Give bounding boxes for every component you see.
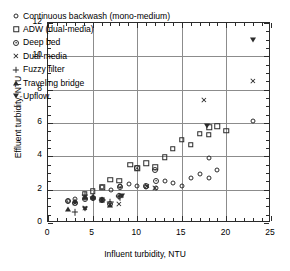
y-tick-minor: [48, 173, 51, 174]
y-tick-minor: [48, 206, 51, 207]
x-tick-major-top: [271, 23, 272, 28]
x-tick-minor: [253, 218, 254, 221]
marker-circle-icon: [207, 156, 212, 161]
x-tick-major: [182, 216, 183, 221]
y-tick-label: 4: [18, 150, 42, 159]
x-tick-minor: [110, 218, 111, 221]
legend-marker: [9, 63, 23, 76]
x-tick-minor: [209, 218, 210, 221]
y-tick-minor: [48, 140, 51, 141]
y-tick-major-right: [264, 123, 269, 124]
marker-square-icon: [100, 184, 106, 190]
y-tick-major-right: [264, 56, 269, 57]
y-tick-label: 10: [18, 50, 42, 59]
marker-square-icon: [162, 154, 168, 160]
y-tick-major-right: [264, 190, 269, 191]
y-tick-label: 6: [18, 117, 42, 126]
y-tick-minor-right: [266, 173, 269, 174]
x-tick-minor: [244, 218, 245, 221]
x-tick-minor-top: [235, 23, 236, 26]
marker-circle-dot-icon: [13, 40, 19, 46]
legend-marker: [9, 36, 23, 49]
marker-circle-icon: [135, 184, 140, 189]
marker-x-icon: [152, 185, 158, 191]
marker-circle-icon: [170, 181, 175, 186]
marker-triangle-down-icon: [13, 94, 19, 99]
marker-circle-dot-icon: [65, 198, 71, 204]
gridline-vertical: [226, 23, 227, 221]
y-tick-minor-right: [266, 31, 269, 32]
marker-square-icon: [127, 162, 133, 168]
y-tick-major: [48, 190, 53, 191]
y-tick-minor-right: [266, 198, 269, 199]
marker-circle-icon: [206, 176, 211, 181]
x-tick-minor: [164, 218, 165, 221]
x-tick-minor: [119, 218, 120, 221]
x-tick-label: 0: [32, 228, 62, 237]
x-tick-minor: [57, 218, 58, 221]
marker-triangle-down-icon: [82, 206, 88, 211]
x-tick-minor: [191, 218, 192, 221]
marker-circle-icon: [188, 176, 193, 181]
y-tick-minor-right: [266, 98, 269, 99]
x-tick-label: 10: [121, 228, 151, 237]
x-tick-minor: [217, 218, 218, 221]
marker-square-icon: [188, 142, 194, 148]
y-tick-minor: [48, 115, 51, 116]
y-tick-minor: [48, 131, 51, 132]
x-tick-minor: [84, 218, 85, 221]
y-tick-major: [48, 156, 53, 157]
marker-square-icon: [13, 27, 19, 33]
x-tick-minor-top: [244, 23, 245, 26]
x-tick-minor: [102, 218, 103, 221]
marker-plus-icon: [13, 67, 19, 73]
y-tick-label: 12: [18, 17, 42, 26]
x-tick-major: [271, 216, 272, 221]
y-tick-label: 8: [18, 84, 42, 93]
y-tick-major: [48, 223, 53, 224]
x-tick-minor: [235, 218, 236, 221]
y-tick-minor-right: [266, 131, 269, 132]
x-tick-minor: [75, 218, 76, 221]
y-tick-minor: [48, 181, 51, 182]
y-tick-minor-right: [266, 73, 269, 74]
x-tick-minor: [155, 218, 156, 221]
marker-circle-dot-icon: [152, 167, 158, 173]
x-tick-minor: [200, 218, 201, 221]
marker-triangle-up-icon: [65, 206, 71, 211]
x-tick-major: [137, 216, 138, 221]
y-tick-minor-right: [266, 115, 269, 116]
marker-plus-icon: [72, 209, 78, 215]
y-tick-label: 0: [18, 217, 42, 226]
x-tick-label: 25: [255, 228, 285, 237]
gridline-horizontal: [48, 156, 269, 157]
y-tick-major-right: [264, 23, 269, 24]
x-tick-label: 15: [166, 228, 196, 237]
x-tick-minor: [146, 218, 147, 221]
figure-scatter-turbidity: Influent turbidity, NTU Effluent turbidi…: [0, 0, 290, 271]
y-tick-label: 2: [18, 184, 42, 193]
y-tick-major-right: [264, 223, 269, 224]
marker-circle-icon: [109, 187, 114, 192]
marker-square-icon: [117, 178, 123, 184]
y-tick-minor-right: [266, 148, 269, 149]
marker-circle-icon: [215, 167, 220, 172]
x-tick-minor-top: [262, 23, 263, 26]
marker-square-icon: [206, 132, 212, 138]
marker-triangle-down-icon: [204, 124, 210, 129]
marker-x-icon: [144, 183, 150, 189]
legend-item-2: Deep bed: [9, 36, 205, 49]
x-tick-minor-top: [253, 23, 254, 26]
x-tick-minor: [66, 218, 67, 221]
marker-square-icon: [224, 128, 230, 134]
marker-x-icon: [116, 201, 122, 207]
x-tick-major-top: [226, 23, 227, 28]
y-tick-minor-right: [266, 40, 269, 41]
y-tick-minor: [48, 215, 51, 216]
marker-triangle-up-icon: [90, 195, 96, 200]
marker-triangle-up-icon: [82, 195, 88, 200]
x-tick-major: [226, 216, 227, 221]
y-tick-major: [48, 123, 53, 124]
legend-label: Fuzzy filter: [23, 64, 65, 74]
y-tick-minor-right: [266, 140, 269, 141]
